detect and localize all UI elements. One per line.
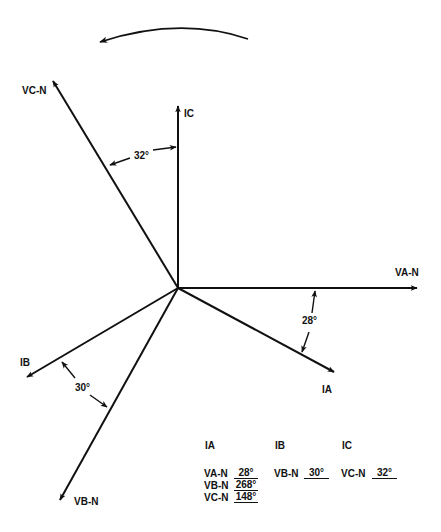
angle-label-30: 30° (75, 382, 90, 393)
angle-label-28: 28° (302, 315, 317, 326)
angle-arrow-28 (302, 332, 309, 352)
phasor-ib (27, 288, 178, 377)
angle-arrow-28 (312, 291, 315, 313)
label-vc-n: VC-N (22, 85, 46, 96)
angle-arrow-30 (62, 362, 75, 378)
phasor-diagram: VA-N IA IC VC-N IB VB-N 28° 30° 32° (0, 0, 441, 532)
phasor-vb-n (60, 288, 178, 500)
rotation-direction-arrow (100, 28, 248, 42)
label-ia: IA (322, 384, 332, 395)
label-vb-n: VB-N (74, 496, 98, 507)
phasor-ia (178, 288, 334, 372)
label-ic: IC (184, 108, 194, 119)
angle-arrow-32 (153, 147, 176, 150)
label-ib: IB (20, 357, 30, 368)
angle-label-32: 32° (134, 150, 149, 161)
angle-arrow-30 (90, 395, 107, 407)
phasor-vc-n (53, 81, 178, 288)
angle-arrow-32 (110, 158, 130, 165)
label-va-n: VA-N (395, 267, 419, 278)
